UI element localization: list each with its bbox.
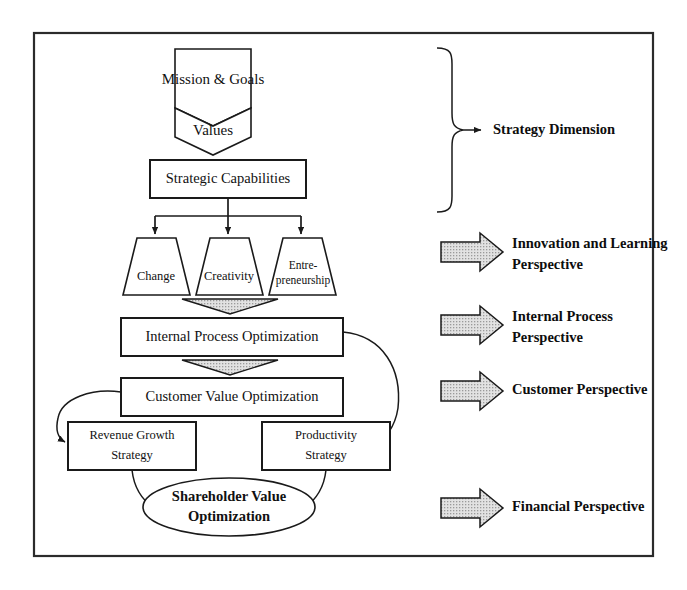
node-strategic-capabilities-label: Strategic Capabilities bbox=[166, 170, 291, 186]
side-label-internal-process-line1: Internal Process bbox=[512, 308, 613, 324]
node-strategic-capabilities: Strategic Capabilities bbox=[150, 160, 306, 198]
block-arrow-innovation-learning bbox=[441, 233, 503, 271]
node-mission-goals-label: Mission & Goals bbox=[162, 71, 265, 87]
node-entrepreneurship: Entre- preneurship bbox=[269, 238, 336, 295]
block-arrow-internal-process bbox=[441, 306, 503, 344]
node-entrepreneurship-label-line2: preneurship bbox=[276, 274, 331, 287]
block-arrow-customer bbox=[441, 372, 503, 410]
node-values-label: Values bbox=[193, 122, 233, 138]
node-internal-process-optimization-label: Internal Process Optimization bbox=[145, 328, 319, 344]
node-internal-process-optimization: Internal Process Optimization bbox=[121, 318, 343, 356]
diagram-page: Mission & Goals Values Strategic Capabil… bbox=[0, 0, 687, 590]
node-shareholder-value-optimization: Shareholder Value Optimization bbox=[143, 478, 315, 536]
node-change: Change bbox=[123, 238, 190, 295]
node-revenue-growth-strategy: Revenue Growth Strategy bbox=[68, 422, 196, 470]
node-entrepreneurship-label-line1: Entre- bbox=[289, 259, 318, 271]
side-label-innovation-learning-line2: Perspective bbox=[512, 256, 583, 272]
chevron-internal-to-customer bbox=[182, 360, 278, 375]
node-change-label: Change bbox=[137, 269, 176, 283]
strategy-map-diagram: Mission & Goals Values Strategic Capabil… bbox=[0, 0, 687, 590]
side-label-strategy-dimension: Strategy Dimension bbox=[493, 121, 615, 137]
node-customer-value-optimization: Customer Value Optimization bbox=[121, 378, 343, 416]
connector-capabilities-to-drivers bbox=[155, 198, 301, 234]
node-creativity: Creativity bbox=[196, 238, 263, 295]
side-label-innovation-learning-line1: Innovation and Learning bbox=[512, 235, 668, 251]
node-productivity-strategy-label-line1: Productivity bbox=[295, 428, 358, 442]
side-label-financial-perspective: Financial Perspective bbox=[512, 498, 645, 514]
node-revenue-growth-strategy-label-line2: Strategy bbox=[111, 448, 153, 462]
chevron-drivers-to-internal-process bbox=[182, 299, 278, 314]
node-productivity-strategy: Productivity Strategy bbox=[262, 422, 390, 470]
node-creativity-label: Creativity bbox=[204, 269, 255, 283]
node-revenue-growth-strategy-label-line1: Revenue Growth bbox=[89, 428, 175, 442]
strategy-dimension-brace bbox=[437, 48, 481, 212]
side-label-customer-perspective: Customer Perspective bbox=[512, 381, 648, 397]
node-shareholder-value-optimization-label-line2: Optimization bbox=[188, 508, 270, 524]
node-customer-value-optimization-label: Customer Value Optimization bbox=[146, 388, 320, 404]
side-label-internal-process-line2: Perspective bbox=[512, 329, 583, 345]
node-productivity-strategy-label-line2: Strategy bbox=[305, 448, 347, 462]
node-shareholder-value-optimization-label-line1: Shareholder Value bbox=[172, 488, 287, 504]
block-arrow-financial bbox=[441, 489, 503, 527]
